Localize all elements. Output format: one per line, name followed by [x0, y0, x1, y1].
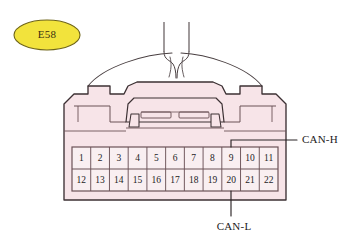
pin-number-6[interactable]: 6 [173, 153, 178, 163]
can-l-label: CAN-L [217, 220, 252, 232]
pin-number-10[interactable]: 10 [245, 153, 255, 163]
pin-number-1[interactable]: 1 [79, 153, 84, 163]
latch-cutout-right [211, 114, 221, 127]
pin-number-19[interactable]: 19 [208, 175, 218, 185]
connector-diagram-svg: 12345678910111213141516171819202122 CAN-… [0, 0, 354, 245]
pin-number-14[interactable]: 14 [114, 175, 124, 185]
pin-number-2[interactable]: 2 [98, 153, 103, 163]
pin-number-5[interactable]: 5 [154, 153, 159, 163]
pin-number-11[interactable]: 11 [264, 153, 273, 163]
connector-id-badge: E58 [14, 20, 80, 50]
pin-number-8[interactable]: 8 [210, 153, 215, 163]
pin-number-4[interactable]: 4 [135, 153, 140, 163]
badge-label: E58 [38, 28, 57, 40]
pin-number-16[interactable]: 16 [152, 175, 162, 185]
pin-number-3[interactable]: 3 [116, 153, 121, 163]
pin-number-21[interactable]: 21 [245, 175, 255, 185]
pin-number-17[interactable]: 17 [170, 175, 180, 185]
connector-latch-platform [126, 98, 224, 122]
pin-grid-group: 12345678910111213141516171819202122 [72, 147, 278, 191]
pin-number-12[interactable]: 12 [77, 175, 87, 185]
can-h-label: CAN-H [302, 133, 338, 145]
pin-number-13[interactable]: 13 [95, 175, 105, 185]
pin-number-15[interactable]: 15 [133, 175, 143, 185]
pin-number-7[interactable]: 7 [191, 153, 196, 163]
pin-number-20[interactable]: 20 [226, 175, 236, 185]
pin-number-18[interactable]: 18 [189, 175, 199, 185]
latch-cutout-left [129, 114, 139, 127]
connector-diagram-root: 12345678910111213141516171819202122 CAN-… [0, 0, 354, 245]
pin-number-22[interactable]: 22 [264, 175, 274, 185]
pin-number-9[interactable]: 9 [229, 153, 234, 163]
